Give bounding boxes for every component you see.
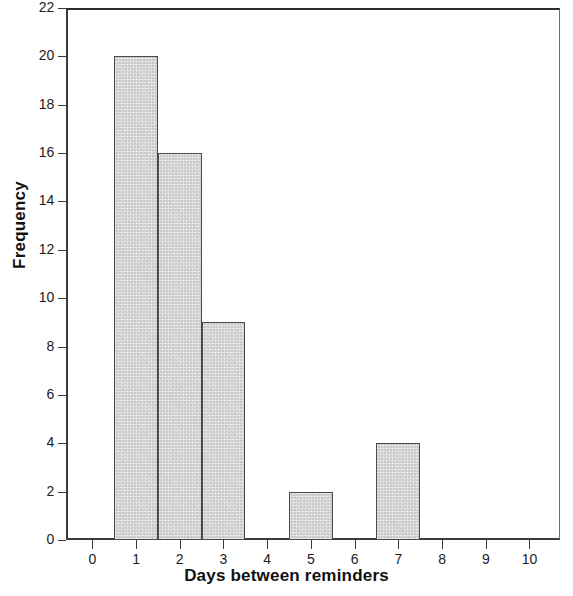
x-axis-tick (398, 540, 399, 549)
x-axis-tick (136, 540, 137, 549)
histogram-bar (202, 322, 246, 540)
histogram-bar (158, 153, 202, 540)
y-axis-tick (58, 395, 66, 396)
x-axis-tick-label: 7 (378, 551, 418, 567)
y-axis-tick-label: 20 (14, 47, 54, 63)
y-axis-tick (58, 250, 66, 251)
x-axis-tick (311, 540, 312, 549)
x-axis-tick (267, 540, 268, 549)
x-axis-tick-label: 6 (335, 551, 375, 567)
y-axis-tick-label: 6 (14, 386, 54, 402)
y-axis-tick-label: 4 (14, 434, 54, 450)
x-axis-tick (92, 540, 93, 549)
histogram-figure: Frequency Days between reminders 0246810… (0, 0, 573, 596)
y-axis-tick-label: 22 (14, 0, 54, 15)
histogram-bar (376, 443, 420, 540)
y-axis-tick (58, 56, 66, 57)
x-axis-title: Days between reminders (0, 566, 573, 586)
histogram-bar (114, 56, 158, 540)
y-axis-tick-label: 16 (14, 144, 54, 160)
y-axis-tick-label: 8 (14, 338, 54, 354)
x-axis-tick-label: 2 (160, 551, 200, 567)
x-axis-tick (355, 540, 356, 549)
x-axis-tick-label: 10 (509, 551, 549, 567)
y-axis-tick (58, 105, 66, 106)
x-axis-tick (223, 540, 224, 549)
y-axis-tick-label: 0 (14, 531, 54, 547)
y-axis-tick (58, 298, 66, 299)
x-axis-tick-label: 0 (72, 551, 112, 567)
x-axis-tick (442, 540, 443, 549)
x-axis-tick-label: 5 (291, 551, 331, 567)
histogram-bar (289, 492, 333, 540)
x-axis-tick-label: 3 (203, 551, 243, 567)
y-axis-tick-label: 12 (14, 241, 54, 257)
x-axis-tick (486, 540, 487, 549)
y-axis-tick (58, 540, 66, 541)
y-axis-tick (58, 8, 66, 9)
y-axis-tick-label: 2 (14, 483, 54, 499)
x-axis-tick-label: 9 (466, 551, 506, 567)
y-axis-tick-label: 10 (14, 289, 54, 305)
y-axis-tick (58, 347, 66, 348)
x-axis-tick-label: 1 (116, 551, 156, 567)
x-axis-tick-label: 4 (247, 551, 287, 567)
y-axis-tick-label: 14 (14, 192, 54, 208)
y-axis-tick (58, 492, 66, 493)
x-axis-tick-label: 8 (422, 551, 462, 567)
y-axis-tick-label: 18 (14, 96, 54, 112)
x-axis-tick (180, 540, 181, 549)
y-axis-tick (58, 443, 66, 444)
y-axis-tick (58, 153, 66, 154)
y-axis-title: Frequency (10, 155, 30, 295)
bars-layer (66, 8, 560, 540)
x-axis-tick (529, 540, 530, 549)
y-axis-tick (58, 201, 66, 202)
